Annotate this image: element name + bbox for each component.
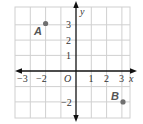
x-tick-1: 1 (89, 73, 94, 84)
y-tick-1: 1 (66, 50, 71, 61)
y-tick-neg2: −2 (61, 97, 72, 108)
point-b-dot-icon (120, 99, 125, 104)
y-axis (73, 1, 78, 122)
point-b-label: B (111, 90, 119, 102)
point-a-label: A (33, 25, 42, 37)
y-axis-up-arrow-icon (73, 1, 78, 8)
y-tick-2: 2 (66, 35, 71, 46)
x-tick-2: 2 (104, 73, 109, 84)
x-axis-label: x (128, 73, 134, 84)
y-tick-3: 3 (66, 19, 71, 30)
coordinate-plane: −3 −2 O 1 2 3 x 3 2 1 −2 y A B (0, 0, 143, 124)
point-a-dot-icon (43, 21, 48, 26)
origin-label: O (64, 73, 71, 84)
y-axis-label: y (79, 6, 85, 17)
x-tick-3: 3 (119, 73, 124, 84)
x-tick-neg3: −3 (17, 73, 28, 84)
x-tick-neg2: −2 (36, 73, 47, 84)
